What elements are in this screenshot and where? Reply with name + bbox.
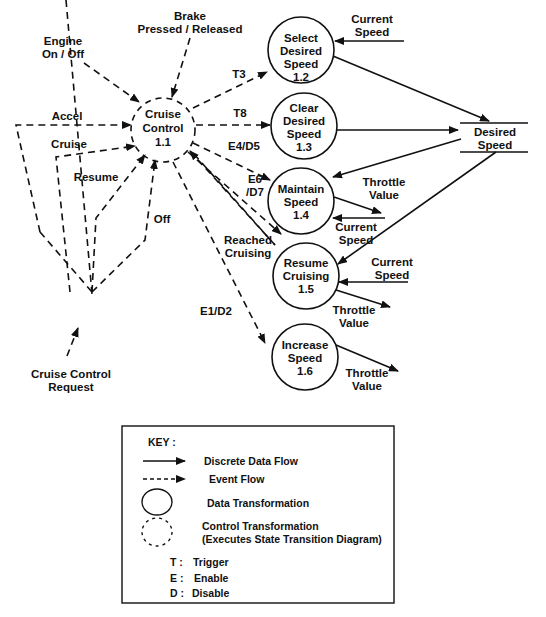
key-label: Control Transformation: [202, 520, 319, 532]
process-1-2: Select Desired Speed 1.2: [268, 17, 334, 83]
label: Cruising: [225, 247, 272, 259]
key-label: Data Transformation: [207, 497, 309, 509]
throttle-value-label: Value: [339, 317, 369, 329]
control-transformation-1-1: Cruise Control 1.1: [131, 98, 195, 162]
label: Select: [284, 32, 318, 44]
key-label: (Executes State Transition Diagram): [202, 533, 382, 545]
label: Cruise: [51, 138, 87, 150]
label: E6: [248, 173, 262, 185]
current-speed-label: Speed: [339, 234, 374, 246]
label: Maintain: [278, 183, 325, 195]
label: Request: [48, 381, 94, 393]
process-1-4: Maintain Speed 1.4: [268, 168, 334, 234]
label: Accel: [52, 110, 83, 122]
throttle-value-label: Value: [369, 189, 399, 201]
label: Off: [154, 213, 171, 225]
process-1-5: Resume Cruising 1.5: [273, 243, 339, 309]
current-speed-label: Speed: [375, 269, 410, 281]
label: Speed: [478, 139, 513, 151]
label: E1/D2: [200, 305, 232, 317]
key-abbr: E :: [170, 572, 183, 584]
label: Desired: [283, 115, 325, 127]
label: E4/D5: [228, 140, 261, 152]
label: Control: [143, 122, 184, 134]
key-title: KEY :: [148, 436, 176, 448]
key-label: Discrete Data Flow: [204, 455, 299, 467]
label: Brake: [174, 10, 206, 22]
label: T3: [232, 68, 245, 80]
throttle-value-label: Value: [352, 380, 382, 392]
key-abbr: Disable: [192, 587, 230, 599]
key-label: Event Flow: [209, 473, 265, 485]
label: On / Off: [42, 48, 84, 60]
label: Clear: [290, 102, 319, 114]
cruise-control-diagram: Cruise Control 1.1 Select Desired Speed …: [0, 0, 546, 617]
label: Speed: [284, 196, 319, 208]
dashed-circle-icon: [142, 518, 172, 546]
throttle-value-label: Throttle: [346, 367, 389, 379]
current-speed-label: Speed: [355, 26, 390, 38]
process-1-3: Clear Desired Speed 1.3: [271, 93, 337, 159]
label: Increase: [282, 339, 329, 351]
label: T8: [233, 107, 247, 119]
throttle-value-label: Throttle: [363, 176, 406, 188]
key-abbr: Trigger: [193, 556, 229, 568]
solid-circle-icon: [142, 489, 172, 515]
current-speed-label: Current: [351, 13, 393, 25]
current-speed-label: Current: [335, 221, 377, 233]
label: Resume: [284, 257, 329, 269]
label: Speed: [287, 128, 322, 140]
label: 1.5: [298, 283, 315, 295]
label: Resume: [74, 171, 119, 183]
data-store-desired-speed: Desired Speed: [460, 123, 528, 152]
label: Reached: [224, 234, 272, 246]
label: Cruise Control: [31, 368, 111, 380]
key-abbr: Enable: [194, 572, 229, 584]
label: 1.6: [297, 365, 313, 377]
label: 1.4: [293, 209, 310, 221]
label: Speed: [284, 58, 319, 70]
label: Desired: [474, 126, 516, 138]
current-speed-label: Current: [371, 256, 413, 268]
label: /D7: [246, 186, 264, 198]
label: 1.1: [155, 136, 172, 148]
label: Pressed / Released: [138, 23, 243, 35]
process-1-6: Increase Speed 1.6: [272, 324, 338, 390]
legend-key: KEY : Discrete Data Flow Event Flow Data…: [122, 426, 394, 603]
request-flow: [67, 328, 78, 356]
key-abbr: T :: [170, 556, 183, 568]
label: Cruise: [145, 108, 181, 120]
label: Cruising: [283, 270, 330, 282]
label: Speed: [288, 352, 323, 364]
label: Desired: [280, 45, 322, 57]
label: Engine: [44, 35, 82, 47]
throttle-value-label: Throttle: [333, 304, 376, 316]
label: 1.3: [296, 141, 312, 153]
label: 1.2: [293, 71, 309, 83]
key-abbr: D :: [170, 587, 184, 599]
